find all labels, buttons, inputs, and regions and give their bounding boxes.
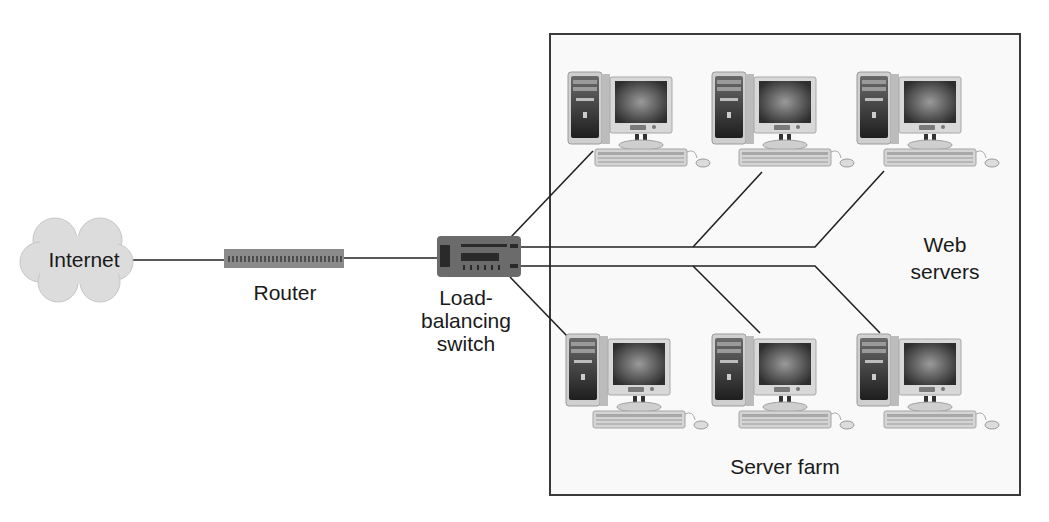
link-switch-server-2 [693,172,762,247]
switch-icon [437,236,521,277]
switch-label-line3: switch [408,332,524,355]
link-switch-server-6 [521,266,880,333]
switch-label-line1: Load- [408,286,524,309]
internet-label: Internet [28,248,140,272]
web-servers-label-line1: Web [895,231,995,258]
server-3-computer-icon [857,72,999,167]
link-switch-server-1 [511,151,593,237]
switch-label-line2: balancing [408,309,524,332]
server-5-computer-icon [712,334,854,429]
network-diagram [0,0,1049,522]
server-1-computer-icon [568,72,710,167]
server-2-computer-icon [712,72,854,167]
switch-label: Load- balancing switch [408,286,524,355]
server-farm-label: Server farm [700,455,870,479]
web-servers-label-line2: servers [895,258,995,285]
router-label: Router [225,281,345,305]
router-icon [224,249,344,268]
link-switch-server-5 [693,266,760,333]
server-4-computer-icon [566,334,708,429]
web-servers-label: Web servers [895,231,995,285]
server-6-computer-icon [857,334,999,429]
